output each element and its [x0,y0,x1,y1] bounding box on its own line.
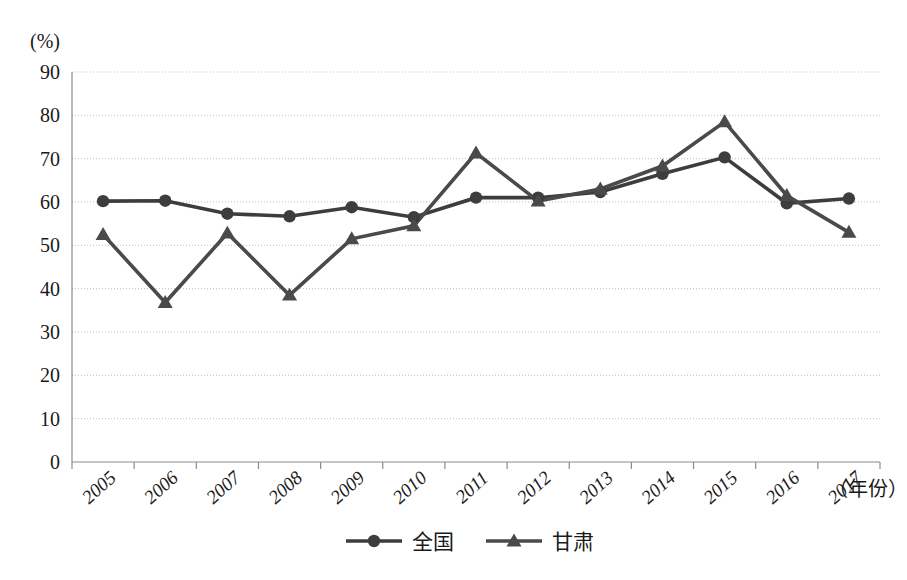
legend-label: 甘肃 [552,530,594,554]
y-axis-tick-label: 90 [40,61,60,83]
y-axis-tick-label: 10 [40,408,60,430]
data-point-marker [97,195,109,207]
y-axis-tick-label: 70 [40,148,60,170]
data-point-marker [843,192,855,204]
y-axis-tick-label: 60 [40,191,60,213]
y-axis-tick-label: 50 [40,234,60,256]
legend-circle-marker-icon [368,535,380,547]
data-point-marker [159,195,171,207]
y-axis-tick-label: 30 [40,321,60,343]
line-chart: (%) 0102030405060708090 2005200620072008… [0,0,907,580]
y-axis-unit-label: (%) [30,30,60,53]
data-point-marker [470,191,482,203]
y-axis-tick-label: 0 [50,451,60,473]
x-axis-title: （年份） [828,478,907,500]
y-axis-tick-label: 40 [40,278,60,300]
data-point-marker [283,210,295,222]
y-axis-tick-label: 80 [40,104,60,126]
data-point-marker [221,208,233,220]
chart-container: (%) 0102030405060708090 2005200620072008… [0,0,907,580]
legend-label: 全国 [412,530,454,554]
y-axis-tick-label: 20 [40,364,60,386]
data-point-marker [718,151,730,163]
data-point-marker [345,201,357,213]
